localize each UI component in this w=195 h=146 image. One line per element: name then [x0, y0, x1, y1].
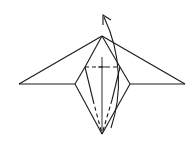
origami-diagram [0, 0, 195, 146]
